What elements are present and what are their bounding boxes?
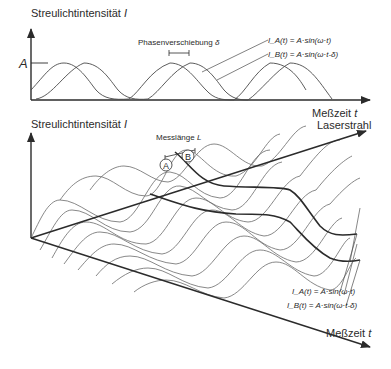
diagram-canvas: Streulichtintensität I A Phasenverschieb… <box>0 0 391 369</box>
point-b-label: B <box>185 152 191 162</box>
leader-line-top-b <box>217 54 268 80</box>
top-formula-a: I_A(t) = A·sin(ω·t) <box>268 36 331 45</box>
laser-axis <box>31 131 366 238</box>
phase-shift-label: Phasenverschiebung δ <box>138 38 220 47</box>
bottom-formula-b: I_B(t) = A·sin(ω·t-δ) <box>287 301 357 310</box>
leader-line-bottom-b <box>346 260 360 306</box>
bottom-formula-a: I_A(t) = A·sin(ω·t) <box>292 287 355 296</box>
bottom-time-axis-label: Meßzeit t <box>326 327 372 339</box>
amplitude-label: A <box>18 56 28 71</box>
measure-length-label: Messlänge L <box>156 133 201 142</box>
point-a-marker: A <box>160 159 172 171</box>
wave-surface <box>31 126 360 298</box>
laser-axis-label: Laserstrahl <box>317 119 371 131</box>
top-y-axis-label: Streulichtintensität I <box>31 7 127 19</box>
top-x-axis-label: Meßzeit t <box>312 107 358 119</box>
leader-line-bottom-a <box>340 234 357 292</box>
top-panel: Streulichtintensität I A Phasenverschieb… <box>18 7 370 119</box>
point-a-label: A <box>163 161 169 171</box>
top-curve-a <box>31 63 306 100</box>
point-b-marker: B <box>182 150 194 162</box>
top-formula-b: I_B(t) = A·sin(ω·t-δ) <box>268 50 338 59</box>
bottom-panel: A B Streulichtintensität I Laserstrahl M… <box>31 118 372 347</box>
bottom-y-axis-label: Streulichtintensität I <box>31 118 127 130</box>
